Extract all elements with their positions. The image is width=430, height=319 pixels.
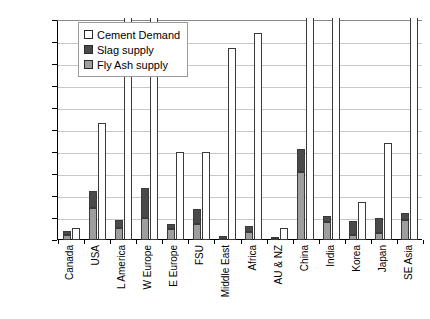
legend-label: Slag supply [97,43,154,57]
bar-slag-supply [63,231,71,234]
bar-slag-supply [375,218,383,233]
bar-fly-ash-supply [89,208,97,240]
x-tick-mark [397,240,398,244]
bar-cement-demand [254,33,262,240]
bar-cement-demand [176,152,184,240]
x-tick-mark [58,240,59,244]
bar-slag-supply [349,221,357,234]
legend-label: Cement Demand [97,28,180,42]
x-tick-mark [214,240,215,244]
bar-slag-supply [297,149,305,172]
bar-fly-ash-supply [63,235,71,241]
bar-slag-supply [167,224,175,230]
bar-fly-ash-supply [323,222,331,240]
x-tick-label: Canada [64,245,75,280]
x-tick-mark [162,240,163,244]
bar-slag-supply [141,188,149,218]
bar-cement-demand [228,48,236,241]
bar-cement-demand [358,202,366,241]
bar-fly-ash-supply [349,235,357,241]
bar-slag-supply [401,213,409,221]
legend-label: Fly Ash supply [97,58,168,72]
bar-fly-ash-supply [297,172,305,240]
x-tick-label: E Europe [168,245,179,287]
bar-cement-demand [98,123,106,240]
bar-cement-demand [306,18,314,240]
bar-fly-ash-supply [193,224,201,241]
bar-slag-supply [219,236,227,239]
bar-group [188,20,214,240]
bar-slag-supply [323,216,331,223]
bar-fly-ash-supply [401,220,409,240]
x-tick-label: AU & NZ [273,245,284,284]
bar-cement-demand [280,228,288,240]
x-tick-mark [84,240,85,244]
legend-item: Slag supply [84,42,180,57]
bar-slag-supply [271,237,279,239]
bar-fly-ash-supply [245,232,253,240]
x-tick-label: W Europe [142,245,153,289]
legend-item: Cement Demand [84,27,180,42]
bar-chart: Mt in 2020 200180160140120100806040200 C… [0,0,430,319]
x-tick-mark [188,240,189,244]
x-tick-label: China [299,245,310,271]
bar-fly-ash-supply [141,218,149,240]
legend-swatch-slag-icon [84,45,93,54]
x-tick-label: Africa [247,245,258,271]
bar-group [397,20,423,240]
bar-fly-ash-supply [115,228,123,240]
x-tick-label: FSU [194,245,205,265]
bar-group [319,20,345,240]
bar-group [214,20,240,240]
legend-swatch-flyash-icon [84,60,93,69]
bar-fly-ash-supply [375,233,383,240]
bar-group [241,20,267,240]
bar-group [345,20,371,240]
x-tick-label: India [325,245,336,267]
chart-legend: Cement DemandSlag supplyFly Ash supply [78,22,188,77]
bar-cement-demand [384,143,392,240]
bar-slag-supply [193,209,201,223]
bar-group [267,20,293,240]
x-tick-label: SE Asia [403,245,414,280]
x-tick-mark [110,240,111,244]
x-tick-mark [423,240,424,244]
x-tick-mark [345,240,346,244]
bar-cement-demand [410,18,418,240]
x-tick-label: L America [116,245,127,289]
bar-group [293,20,319,240]
bar-slag-supply [89,191,97,209]
x-tick-mark [319,240,320,244]
bar-cement-demand [72,228,80,240]
bar-fly-ash-supply [167,229,175,240]
bar-cement-demand [332,18,340,240]
x-tick-mark [241,240,242,244]
x-tick-label: Japan [377,245,388,272]
legend-swatch-demand-icon [84,30,93,39]
legend-item: Fly Ash supply [84,57,180,72]
x-tick-mark [371,240,372,244]
bar-group [371,20,397,240]
y-tick-mark [52,240,57,241]
x-tick-label: USA [90,245,101,266]
bar-cement-demand [202,152,210,240]
bar-slag-supply [115,220,123,228]
x-tick-label: Middle East [220,245,231,297]
bar-slag-supply [245,226,253,233]
x-tick-mark [136,240,137,244]
x-tick-mark [267,240,268,244]
x-tick-label: Korea [351,245,362,272]
x-tick-mark [293,240,294,244]
